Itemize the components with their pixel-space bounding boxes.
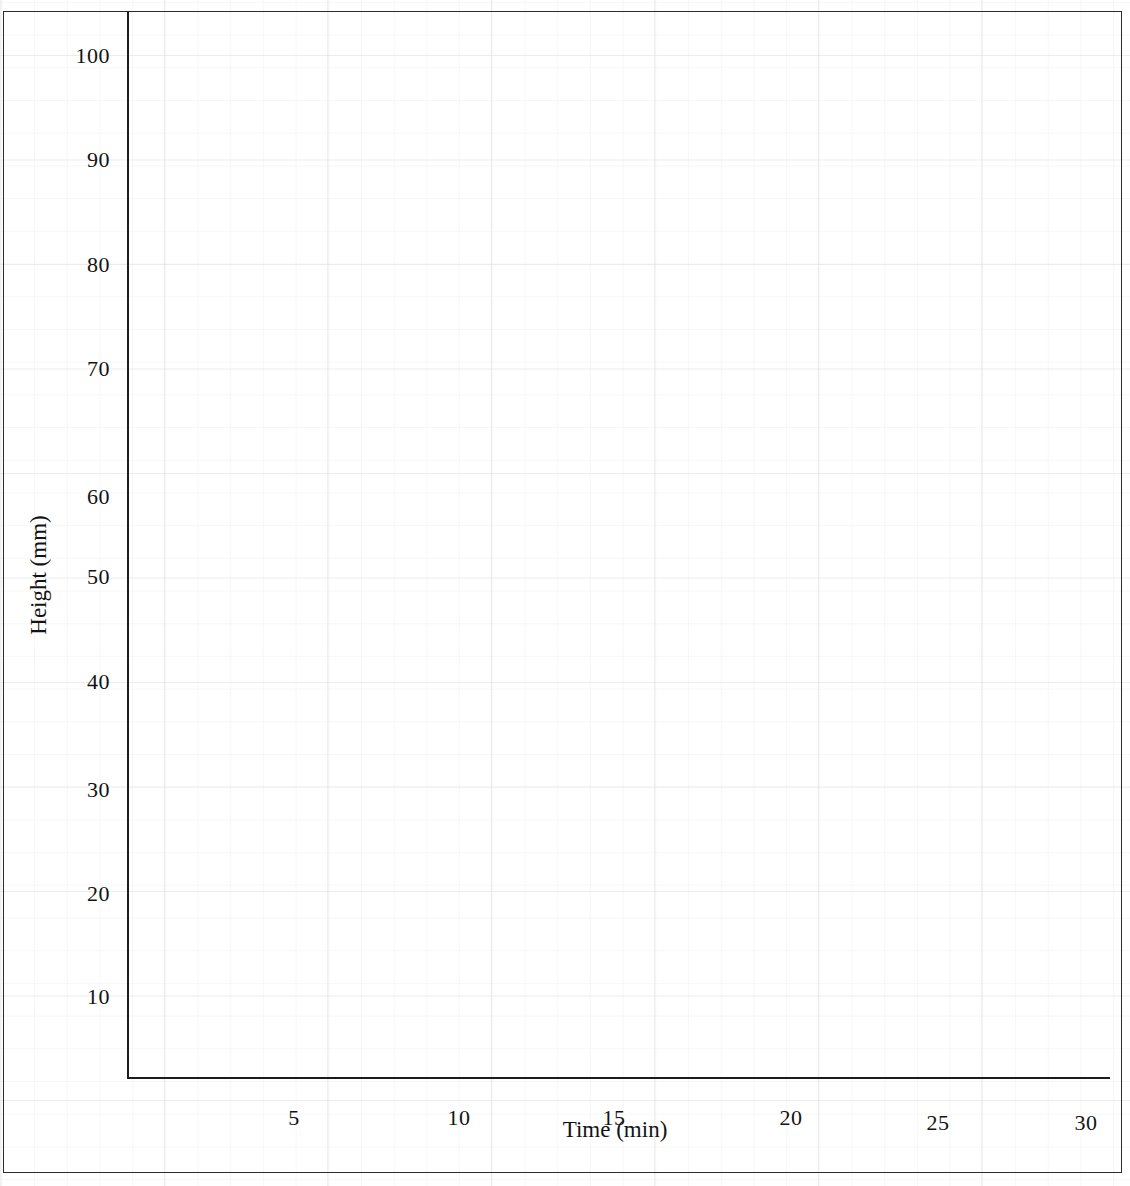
x-axis-line <box>127 1077 1110 1079</box>
y-tick-label-100: 100 <box>40 45 110 67</box>
y-tick-label-20: 20 <box>40 883 110 905</box>
y-tick-label-60: 60 <box>40 486 110 508</box>
y-tick-label-40: 40 <box>40 671 110 693</box>
y-tick-label-90: 90 <box>40 149 110 171</box>
y-tick-label-80: 80 <box>40 254 110 276</box>
x-tick-label-10: 10 <box>448 1107 471 1129</box>
x-tick-label-20: 20 <box>780 1107 803 1129</box>
y-tick-label-10: 10 <box>40 986 110 1008</box>
x-axis-title: Time (min) <box>563 1118 668 1141</box>
graph-page: 100 90 80 70 60 50 40 30 20 10 5 10 15 2… <box>0 0 1130 1186</box>
y-axis-title: Height (mm) <box>27 515 50 634</box>
y-tick-label-70: 70 <box>40 358 110 380</box>
x-tick-label-25: 25 <box>927 1112 950 1134</box>
page-border <box>3 11 1122 1173</box>
y-tick-label-50: 50 <box>40 566 110 588</box>
x-tick-label-30: 30 <box>1075 1112 1098 1134</box>
x-tick-label-5: 5 <box>288 1107 300 1129</box>
y-tick-label-30: 30 <box>40 779 110 801</box>
graph-paper-grid <box>0 0 1130 1186</box>
y-axis-line <box>127 11 129 1079</box>
